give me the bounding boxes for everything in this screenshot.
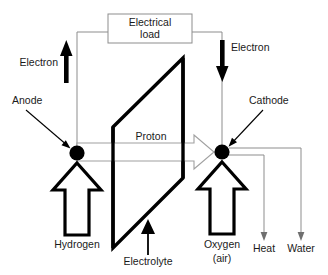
oxygen-inlet: Oxygen (air): [198, 162, 246, 264]
electrical-load-label-line1: Electrical: [129, 16, 172, 28]
proton-flow-arrow: Proton: [77, 130, 214, 169]
heat-label: Heat: [253, 242, 275, 254]
electron-left-label: Electron: [19, 56, 58, 68]
electrical-load-label-line2: load: [140, 28, 160, 40]
cathode-dot-icon: [214, 144, 229, 159]
cathode-callout: Cathode: [229, 94, 289, 147]
electron-left-arrow-head-icon: [60, 40, 73, 56]
anode-leader-line: [26, 110, 68, 146]
hydrogen-arrow-icon: [53, 163, 101, 235]
cathode-label: Cathode: [249, 94, 289, 106]
cathode-wire: [192, 32, 222, 148]
proton-label: Proton: [136, 130, 167, 142]
fuel-cell-schematic: Electrical load Electron Electron Proton: [0, 0, 328, 275]
electron-right-arrow-shaft: [220, 40, 225, 70]
cathode-leader-line: [231, 110, 263, 144]
cathode-terminal: [214, 144, 229, 159]
hydrogen-inlet: Hydrogen: [53, 163, 101, 250]
oxygen-label-line1: Oxygen: [204, 238, 240, 250]
electron-flow-right: Electron: [216, 40, 270, 82]
oxygen-label-line2: (air): [213, 252, 232, 264]
anode-label: Anode: [12, 94, 43, 106]
anode-dot-icon: [69, 145, 84, 160]
oxygen-arrow-icon: [198, 162, 246, 234]
anode-terminal: [69, 145, 84, 160]
electrolyte-leader-arrow-icon: [141, 219, 155, 234]
anode-callout: Anode: [12, 94, 71, 149]
water-label: Water: [287, 242, 315, 254]
electron-right-arrow-head-icon: [216, 66, 229, 82]
electrical-load-block: Electrical load: [108, 14, 192, 43]
electron-left-arrow-shaft: [64, 53, 69, 83]
water-outlet: Water: [229, 148, 315, 254]
hydrogen-label: Hydrogen: [54, 238, 100, 250]
fuel-cell-diagram-canvas: Electrical load Electron Electron Proton: [0, 0, 328, 275]
heat-arrow-head-icon: [261, 232, 268, 241]
electrolyte-callout: Electrolyte: [123, 219, 172, 267]
water-line: [229, 148, 301, 234]
anode-wire: [77, 32, 108, 153]
electrolyte-label: Electrolyte: [123, 255, 172, 267]
electron-flow-left: Electron: [19, 40, 72, 83]
water-arrow-head-icon: [298, 232, 305, 241]
electron-right-label: Electron: [231, 41, 270, 53]
